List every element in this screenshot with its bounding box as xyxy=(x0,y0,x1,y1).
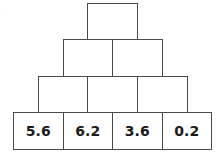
pyramid-base-cell-3: 3.6 xyxy=(112,112,163,150)
pyramid-base-cell-4: 0.2 xyxy=(162,112,213,150)
pyramid-cell-r1-c1[interactable] xyxy=(87,3,138,41)
pyramid-cell-r3-c3[interactable] xyxy=(137,76,188,114)
pyramid-cell-r3-c1[interactable] xyxy=(38,76,89,114)
pyramid-base-cell-1: 5.6 xyxy=(13,112,64,150)
pyramid-base-cell-2: 6.2 xyxy=(63,112,114,150)
pyramid-cell-r2-c2[interactable] xyxy=(112,39,163,77)
pyramid-cell-r2-c1[interactable] xyxy=(63,39,114,77)
pyramid-cell-r3-c2[interactable] xyxy=(87,76,138,114)
question-label: ) xyxy=(0,2,1,20)
